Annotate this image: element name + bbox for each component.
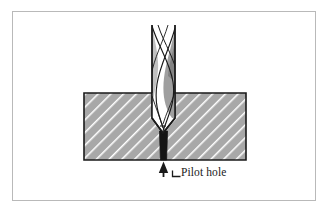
callout-leader-line bbox=[173, 171, 181, 177]
pilot-hole-callout-leader bbox=[159, 162, 181, 178]
figure-page: Pilot hole bbox=[0, 0, 329, 214]
pilot-hole bbox=[160, 131, 168, 160]
twist-drill-bit bbox=[150, 25, 178, 133]
drill-cross-section-drawing bbox=[0, 0, 329, 214]
pilot-hole-label: Pilot hole bbox=[181, 166, 226, 179]
callout-arrow-head-icon bbox=[159, 162, 168, 174]
